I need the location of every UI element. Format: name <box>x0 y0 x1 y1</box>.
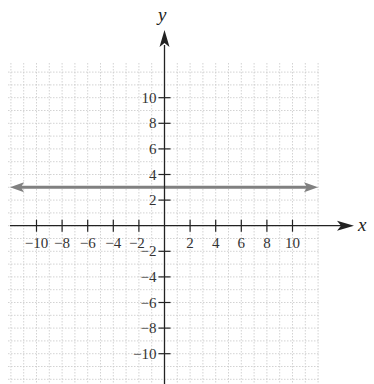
y-tick-label: 2 <box>149 192 157 208</box>
y-axis-label: y <box>156 4 167 25</box>
coordinate-plane: −10−8−6−4−2246810−10−8−6−4−2246810 x y <box>0 0 374 384</box>
y-tick-label: 10 <box>142 90 157 106</box>
y-tick-label: 8 <box>149 115 157 131</box>
x-tick-label: 10 <box>285 235 300 251</box>
y-tick-label: 6 <box>149 141 157 157</box>
x-tick-label: −10 <box>25 235 48 251</box>
y-tick-label: −6 <box>141 295 157 311</box>
y-axis-arrow-icon <box>160 30 170 47</box>
x-tick-label: −4 <box>105 235 121 251</box>
x-tick-label: −6 <box>80 235 96 251</box>
axes <box>10 30 354 384</box>
y-tick-label: 4 <box>149 167 157 183</box>
y-tick-label: −8 <box>141 320 157 336</box>
x-tick-label: 8 <box>263 235 271 251</box>
x-axis-label: x <box>357 214 367 235</box>
y-tick-label: −2 <box>141 243 157 259</box>
x-tick-label: −8 <box>54 235 70 251</box>
y-tick-label: −4 <box>141 269 157 285</box>
x-tick-label: 4 <box>212 235 220 251</box>
x-tick-label: 6 <box>238 235 246 251</box>
y-tick-label: −10 <box>133 346 156 362</box>
x-tick-label: 2 <box>186 235 194 251</box>
